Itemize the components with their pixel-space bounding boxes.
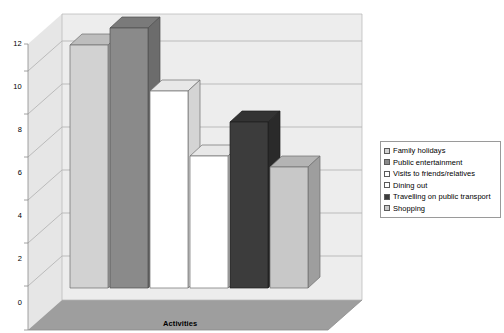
legend-item-public-entertainment[interactable]: Public entertainment: [384, 157, 497, 169]
legend-swatch-family-holidays: [384, 148, 390, 154]
legend: Family holidays Public entertainment Vis…: [380, 141, 501, 218]
legend-label-shopping: Shopping: [393, 204, 425, 213]
bar-chart-3d: 12 10 8 6 4 2 0 Activities Family holida…: [0, 0, 504, 333]
legend-swatch-public-entertainment: [384, 159, 390, 165]
bar-front-face: [270, 167, 308, 288]
y-tick-label-0: 0: [0, 299, 22, 307]
bar-side-face: [308, 156, 320, 288]
bar-front-face: [230, 122, 268, 288]
legend-item-shopping[interactable]: Shopping: [384, 203, 497, 215]
bar-front-face: [190, 156, 228, 288]
legend-item-dining-out[interactable]: Dining out: [384, 180, 497, 192]
legend-label-public-entertainment: Public entertainment: [393, 158, 462, 167]
legend-item-travelling-on-public-transport[interactable]: Travelling on public transport: [384, 191, 497, 203]
left-side-wall: [28, 14, 62, 330]
y-tick-label-2: 2: [0, 255, 22, 263]
y-tick-label-6: 6: [0, 169, 22, 177]
y-tick-marks: [24, 44, 28, 330]
legend-label-family-holidays: Family holidays: [393, 146, 445, 155]
bar-front-face: [150, 91, 188, 288]
legend-swatch-visits-to-friends-relatives: [384, 171, 390, 177]
legend-label-travelling-on-public-transport: Travelling on public transport: [393, 192, 491, 201]
y-tick-label-12: 12: [0, 40, 22, 48]
legend-swatch-dining-out: [384, 182, 390, 188]
legend-item-visits-to-friends-relatives[interactable]: Visits to friends/relatives: [384, 168, 497, 180]
y-tick-label-4: 4: [0, 212, 22, 220]
legend-swatch-travelling-on-public-transport: [384, 194, 390, 200]
y-tick-label-10: 10: [0, 83, 22, 91]
y-tick-label-8: 8: [0, 126, 22, 134]
legend-label-dining-out: Dining out: [393, 181, 427, 190]
bar-shopping: [270, 156, 320, 288]
bar-front-face: [70, 45, 108, 288]
bar-front-face: [110, 28, 148, 288]
legend-swatch-shopping: [384, 205, 390, 211]
x-axis-title: Activities: [163, 319, 197, 328]
legend-item-family-holidays[interactable]: Family holidays: [384, 145, 497, 157]
legend-label-visits-to-friends-relatives: Visits to friends/relatives: [393, 169, 475, 178]
